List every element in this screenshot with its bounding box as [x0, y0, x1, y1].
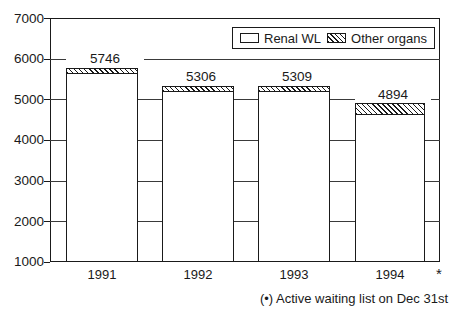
gridline-3000 — [234, 181, 258, 182]
x-axis-label-1993: 1993 — [258, 268, 330, 281]
x-axis-label-1991: 1991 — [66, 268, 138, 281]
gridline-4000 — [425, 140, 440, 141]
white-swatch-icon — [240, 33, 259, 43]
gridline-3000 — [330, 181, 355, 182]
legend: Renal WL Other organs — [232, 27, 435, 49]
bar-value-1993: 5309 — [258, 70, 336, 84]
y-tick-label: 4000 — [0, 133, 44, 147]
bar-other-organs-1993 — [258, 86, 330, 93]
bar-chart: 7000 6000 5000 4000 3000 2000 1000 — [0, 0, 458, 320]
hatched-swatch-icon — [327, 33, 346, 43]
gridline-4000 — [50, 140, 66, 141]
footnote-asterisk-marker: * — [428, 266, 450, 281]
legend-item-other-organs: Other organs — [327, 32, 427, 45]
legend-label-renal-wl: Renal WL — [264, 32, 321, 45]
y-axis: 7000 6000 5000 4000 3000 2000 1000 — [0, 0, 50, 320]
gridline-5000 — [330, 99, 355, 100]
legend-item-renal-wl: Renal WL — [240, 32, 321, 45]
bar-renal-wl-1992 — [162, 90, 234, 262]
gridline-2000 — [425, 221, 440, 222]
y-tick-label: 1000 — [0, 255, 44, 269]
gridline-2000 — [330, 221, 355, 222]
y-tick-label: 2000 — [0, 215, 44, 229]
x-axis-label-1994: 1994 — [355, 268, 425, 281]
y-tick-label: 3000 — [0, 174, 44, 188]
bar-value-1992: 5306 — [162, 70, 240, 84]
bar-value-1991: 5746 — [66, 52, 144, 66]
bar-value-1994: 4894 — [355, 88, 431, 102]
bar-other-organs-1991 — [66, 68, 138, 75]
chart-footnote: (•) Active waiting list on Dec 31st — [0, 292, 448, 305]
y-tick-label: 6000 — [0, 52, 44, 66]
gridline-4000 — [330, 140, 355, 141]
bar-renal-wl-1994 — [355, 113, 425, 262]
gridline-2000 — [234, 221, 258, 222]
gridline-3000 — [50, 181, 66, 182]
y-tick-label: 7000 — [0, 12, 44, 26]
gridline-6000 — [50, 59, 66, 60]
bar-other-organs-1992 — [162, 86, 234, 93]
gridline-5000 — [138, 99, 162, 100]
gridline-5000 — [50, 99, 66, 100]
gridline-2000 — [138, 221, 162, 222]
x-axis-label-1992: 1992 — [162, 268, 234, 281]
gridline-4000 — [234, 140, 258, 141]
gridline-3000 — [425, 181, 440, 182]
y-tick-label: 5000 — [0, 93, 44, 107]
gridline-4000 — [138, 140, 162, 141]
gridline-5000 — [234, 99, 258, 100]
bar-renal-wl-1991 — [66, 72, 138, 262]
legend-label-other-organs: Other organs — [351, 32, 427, 45]
bar-other-organs-1994 — [355, 103, 425, 115]
bar-renal-wl-1993 — [258, 90, 330, 262]
gridline-6000 — [138, 59, 440, 60]
gridline-2000 — [50, 221, 66, 222]
gridline-3000 — [138, 181, 162, 182]
